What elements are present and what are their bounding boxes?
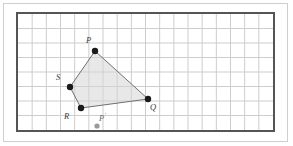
quadrilateral-pqrs bbox=[70, 51, 148, 108]
label-r: R bbox=[64, 112, 69, 121]
point-marker-s bbox=[67, 84, 73, 90]
point-marker-pp bbox=[94, 123, 99, 128]
geometry-figure: PQRSP' bbox=[0, 0, 293, 146]
polygon-layer bbox=[0, 0, 293, 146]
label-prime-mark: ' bbox=[104, 112, 105, 118]
label-p: P bbox=[86, 36, 91, 45]
label-q: Q bbox=[150, 103, 156, 112]
label-s: S bbox=[56, 73, 60, 82]
point-marker-r bbox=[78, 105, 84, 111]
label-pp: P' bbox=[99, 112, 106, 122]
point-marker-p bbox=[92, 48, 98, 54]
